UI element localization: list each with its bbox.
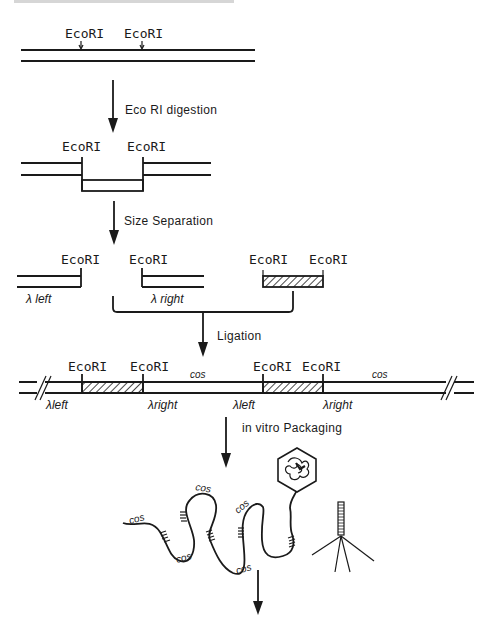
down-arrowhead-icon — [108, 118, 118, 133]
ecori-site-label: EcoRI — [130, 359, 169, 374]
lambda-left-label: λ left — [25, 292, 52, 306]
ecori-site-label: EcoRI — [124, 26, 163, 41]
phage-tail-icon — [312, 502, 374, 572]
lambda-left-label: λleft — [45, 398, 69, 412]
ecori-site-label: EcoRI — [61, 252, 100, 267]
cos-site-label: cos — [372, 369, 388, 380]
phage-head-icon — [278, 448, 316, 492]
down-arrowhead-icon — [221, 453, 231, 468]
step-label-in-vitro-packaging: in vitro Packaging — [242, 421, 342, 435]
step2-arrow: Size Separation — [109, 201, 213, 245]
ecori-site-label: EcoRI — [129, 252, 168, 267]
lambda-left-label: λleft — [232, 398, 256, 412]
insert-fragment-hatched — [82, 382, 143, 393]
lambda-right-label: λright — [322, 398, 353, 412]
step-label-ligation: Ligation — [217, 329, 261, 343]
cloning-diagram: EcoRI EcoRI Eco RI digestion EcoRI EcoRI — [0, 0, 494, 626]
stage2-digested-fragments: EcoRI EcoRI — [21, 139, 211, 191]
cos-end-marks — [160, 512, 295, 547]
cos-site-label: cos — [235, 561, 253, 576]
step-label-ecori-digestion: Eco RI digestion — [125, 103, 217, 117]
cos-site-label: cos — [195, 481, 212, 495]
ecori-site-label: EcoRI — [65, 26, 104, 41]
step1-arrow: Eco RI digestion — [108, 80, 217, 133]
cos-site-label: cos — [232, 497, 251, 515]
ecori-site-label: EcoRI — [253, 359, 292, 374]
cos-site-label: cos — [175, 550, 193, 565]
ecori-site-label: EcoRI — [249, 252, 288, 267]
cos-site-label: cos — [190, 369, 206, 380]
step-label-size-separation: Size Separation — [124, 214, 213, 228]
ecori-site-label: EcoRI — [127, 139, 166, 154]
ecori-site-label: EcoRI — [62, 139, 101, 154]
stage1-genomic-dna: EcoRI EcoRI — [21, 26, 255, 61]
insert-fragment-hatched — [263, 382, 323, 393]
insert-fragment-open — [82, 180, 143, 191]
stage5-packaging: cos cos cos cos cos — [123, 448, 374, 576]
lambda-right-label: λright — [147, 398, 178, 412]
lambda-right-label: λ right — [150, 292, 184, 306]
down-arrowhead-icon — [253, 601, 263, 615]
ecori-site-label: EcoRI — [309, 252, 348, 267]
stage3-separated: EcoRI EcoRI EcoRI EcoRI λ left λ right — [17, 252, 348, 312]
ecori-site-label: EcoRI — [68, 359, 107, 374]
stage4-concatemer: EcoRI EcoRI EcoRI EcoRI cos cos λleft λr… — [19, 359, 474, 412]
ligation-bracket — [113, 291, 293, 312]
down-arrowhead-icon — [198, 342, 208, 357]
final-arrow — [253, 570, 263, 615]
down-arrowhead-icon — [109, 230, 119, 245]
ecori-site-label: EcoRI — [302, 359, 341, 374]
insert-fragment-hatched — [263, 276, 323, 287]
step3-arrow: Ligation — [198, 312, 261, 357]
